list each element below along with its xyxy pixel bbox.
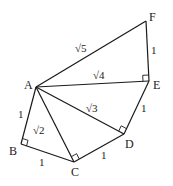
- point-label-a: A: [24, 78, 33, 92]
- length-label-ae: √4: [93, 69, 105, 81]
- segment-ad: [36, 87, 124, 134]
- length-label-cd: 1: [101, 149, 107, 161]
- spiral-diagram: A B C D E F 1 1 1 1 1 √2 √3 √4 √5: [0, 0, 173, 186]
- length-label-de: 1: [141, 102, 147, 114]
- length-label-af: √5: [75, 42, 87, 54]
- length-label-bc: 1: [39, 156, 45, 168]
- point-label-b: B: [9, 144, 17, 158]
- length-label-ef: 1: [151, 44, 157, 56]
- point-label-d: D: [125, 137, 134, 151]
- length-label-ac: √2: [33, 124, 45, 136]
- segment-ae: [36, 81, 149, 87]
- segment-ef: [146, 21, 149, 81]
- length-label-ab: 1: [18, 108, 24, 120]
- segment-af: [36, 21, 146, 87]
- segment-cd: [74, 134, 124, 162]
- length-label-ad: √3: [86, 102, 98, 114]
- right-angle-marker-e: [143, 75, 149, 81]
- point-label-e: E: [153, 78, 160, 92]
- point-label-f: F: [149, 10, 156, 24]
- point-label-c: C: [71, 165, 79, 179]
